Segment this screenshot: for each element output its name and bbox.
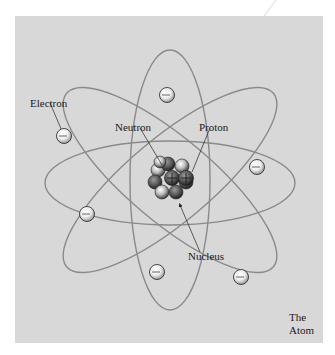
- electron-icon: [160, 88, 175, 103]
- atom-diagram: [0, 0, 335, 355]
- nucleus-label: Nucleus: [188, 250, 224, 262]
- electron-icon: [150, 265, 165, 280]
- electron-icon: [250, 160, 265, 175]
- title-line-1: The: [289, 311, 314, 324]
- proton-label: Proton: [199, 121, 228, 133]
- electron-icon: [57, 129, 72, 144]
- diagram-title: The Atom: [289, 311, 314, 337]
- electron-icon: [80, 207, 95, 222]
- electron-label: Electron: [30, 97, 67, 109]
- proton-leader: [192, 128, 210, 172]
- nucleus: [148, 156, 194, 199]
- neutron-leader: [140, 128, 162, 165]
- title-line-2: Atom: [289, 324, 314, 337]
- electron-icon: [234, 270, 249, 285]
- neutron-label: Neutron: [115, 121, 151, 133]
